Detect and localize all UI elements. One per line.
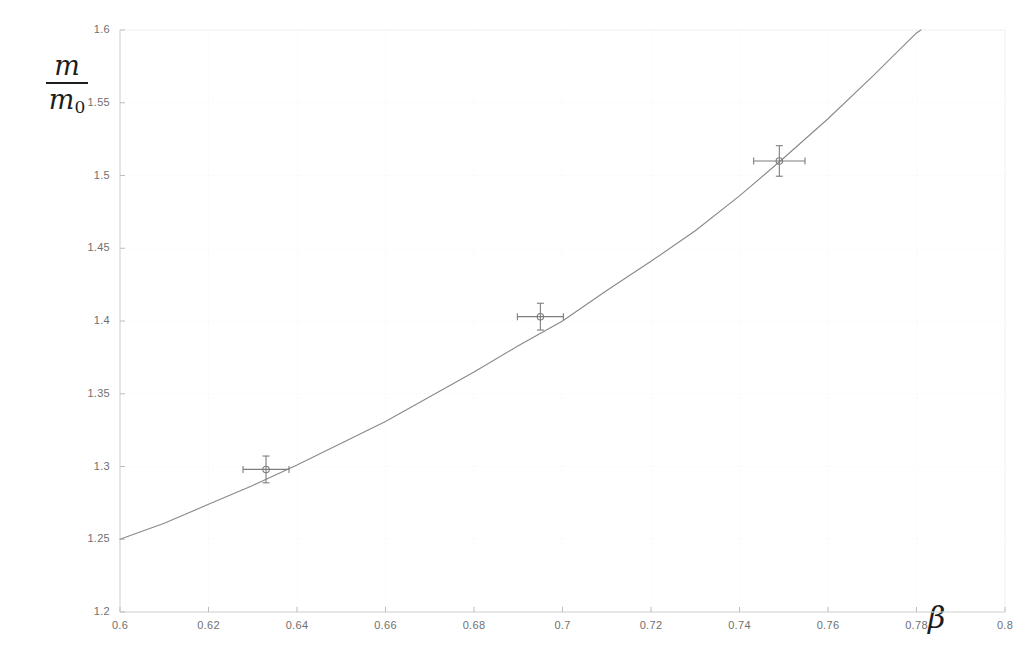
x-axis-tick-label: 0.78 bbox=[887, 619, 947, 631]
x-axis-tick-label: 0.8 bbox=[975, 619, 1034, 631]
x-axis-tick-label: 0.62 bbox=[179, 619, 239, 631]
x-axis-tick-label: 0.64 bbox=[267, 619, 327, 631]
y-axis-tick-label: 1.35 bbox=[42, 387, 110, 399]
x-axis-tick-label: 0.66 bbox=[356, 619, 416, 631]
y-axis-tick-label: 1.6 bbox=[42, 23, 110, 35]
data-markers-group bbox=[263, 158, 783, 473]
chart-figure: m m0 β 1.21.251.31.351.41.451.51.551.6 0… bbox=[0, 0, 1034, 672]
y-axis-tick-label: 1.25 bbox=[42, 532, 110, 544]
x-axis-tick-label: 0.74 bbox=[710, 619, 770, 631]
y-axis-tick-label: 1.2 bbox=[42, 605, 110, 617]
plot-canvas bbox=[0, 0, 1034, 672]
y-axis-tick-label: 1.3 bbox=[42, 460, 110, 472]
x-axis-tick-label: 0.7 bbox=[533, 619, 593, 631]
x-axis-tick-label: 0.76 bbox=[798, 619, 858, 631]
theory-curve-path-group bbox=[120, 30, 921, 539]
x-axis-tick-label: 0.68 bbox=[444, 619, 504, 631]
y-axis-tick-label: 1.45 bbox=[42, 241, 110, 253]
y-axis-tick-label: 1.4 bbox=[42, 314, 110, 326]
y-axis-tick-label: 1.55 bbox=[42, 96, 110, 108]
x-axis-tick-label: 0.6 bbox=[90, 619, 150, 631]
error-bars-group bbox=[243, 146, 805, 483]
x-axis-tick-label: 0.72 bbox=[621, 619, 681, 631]
y-axis-tick-label: 1.5 bbox=[42, 169, 110, 181]
